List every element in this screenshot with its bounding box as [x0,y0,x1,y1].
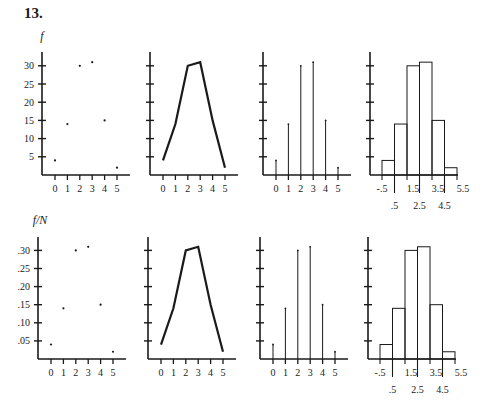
y-tick-label: .25 [18,263,31,274]
data-point [116,167,118,169]
x-tick-label: 1 [61,367,66,378]
histogram-bar [407,66,420,175]
x-tick-label-upper: -.5 [377,183,388,194]
histogram-bar [420,62,433,175]
chart-panel-bottom-line: 012345 [144,237,236,378]
y-tick-label: 5 [29,151,34,162]
data-point [112,351,114,353]
histogram-bar [445,168,458,175]
y-tick-label: .30 [18,245,31,256]
data-point [100,304,102,306]
data-point [79,65,81,67]
x-tick-label: 3 [196,367,201,378]
x-tick-label-lower: 4.5 [436,384,449,395]
y-tick-label: 15 [24,115,34,126]
x-tick-label-lower: .5 [391,200,399,211]
histogram-bar [380,345,393,359]
data-point [66,123,68,125]
data-point [75,249,77,251]
data-point [50,343,52,345]
y-tick-label: .10 [18,317,31,328]
y-tick-label: 20 [24,97,34,108]
x-tick-label: 4 [102,183,107,194]
x-tick-label: 0 [53,183,58,194]
data-point [91,61,93,63]
x-tick-label: 2 [183,367,188,378]
x-tick-label: 5 [221,367,226,378]
histogram-bar [393,308,406,359]
data-point [104,119,106,121]
x-tick-label-lower: 2.5 [413,200,426,211]
x-tick-label: 2 [298,183,303,194]
stem-tip [275,160,277,162]
y-tick-label: 25 [24,79,34,90]
histogram-bar [382,160,395,175]
x-tick-label: 4 [323,183,328,194]
x-tick-label-upper: 3.5 [430,367,443,378]
histogram-bar [405,250,418,359]
frequency-polygon [163,62,225,168]
x-tick-label: 5 [333,367,338,378]
x-tick-label: 3 [198,183,203,194]
x-tick-label-upper: 5.5 [455,367,468,378]
x-tick-label: 3 [90,183,95,194]
x-tick-label: 5 [223,183,228,194]
x-tick-label-upper: 1.5 [407,183,420,194]
histogram-bar [418,247,431,359]
x-tick-label: 5 [115,183,120,194]
x-tick-label: 1 [171,367,176,378]
x-tick-label-upper: 1.5 [405,367,418,378]
stem-tip [322,304,324,306]
data-point [62,307,64,309]
stem-tip [300,65,302,67]
x-tick-label: 0 [161,183,166,194]
y-axis-label: f [40,29,45,43]
chart-panel-top-stem: 012345 [259,52,351,194]
chart-panel-bottom-stem: 012345 [256,237,348,378]
stem-tip [288,123,290,125]
x-tick-label: 1 [173,183,178,194]
x-tick-label: 5 [111,367,116,378]
x-tick-label-lower: 4.5 [438,200,451,211]
x-tick-label: 1 [283,367,288,378]
stem-tip [297,250,299,252]
stem-tip [272,344,274,346]
x-tick-label: 5 [336,183,341,194]
data-point [87,246,89,248]
x-tick-label: 1 [65,183,70,194]
stem-tip [334,351,336,353]
x-tick-label: 2 [77,183,82,194]
stem-tip [312,61,314,63]
x-tick-label: 4 [210,183,215,194]
histogram-bar [432,120,445,175]
y-tick-label: .20 [18,281,31,292]
x-tick-label: 4 [208,367,213,378]
x-tick-label: 3 [311,183,316,194]
x-tick-label: 0 [159,367,164,378]
stem-tip [285,307,287,309]
chart-panel-top-histogram: -.51.53.55.5.52.54.5 [366,52,469,211]
x-tick-label: 3 [86,367,91,378]
y-axis-label: f/N [33,213,49,227]
x-tick-label-upper: -.5 [375,367,386,378]
y-tick-label: 30 [24,60,34,71]
stem-tip [309,246,311,248]
x-tick-label: 2 [295,367,300,378]
x-tick-label: 1 [286,183,291,194]
chart-panel-top-line: 012345 [146,52,238,194]
chart-panel-bottom-histogram: -.51.53.55.5.52.54.5 [364,237,467,395]
histogram-bar [443,352,456,359]
chart-panel-bottom-scatter: .05.10.15.20.25.30f/N012345 [18,213,127,378]
x-tick-label-upper: 3.5 [432,183,445,194]
histogram-bar [430,305,443,359]
stem-tip [337,167,339,169]
x-tick-label: 3 [308,367,313,378]
x-tick-label: 0 [49,367,54,378]
x-tick-label: 0 [271,367,276,378]
x-tick-label-lower: 2.5 [411,384,424,395]
y-tick-label: 10 [24,133,34,144]
frequency-polygon [161,247,223,352]
x-tick-label: 2 [73,367,78,378]
y-tick-label: .05 [18,335,31,346]
x-tick-label: 4 [320,367,325,378]
